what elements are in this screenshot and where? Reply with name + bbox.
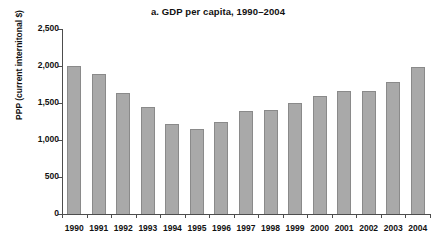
x-tick-mark: [185, 214, 186, 218]
bar: [116, 93, 130, 214]
x-tick-mark: [283, 214, 284, 218]
x-tick-mark: [307, 214, 308, 218]
bar: [190, 129, 204, 214]
y-tick-label: 0: [54, 208, 59, 218]
bar: [67, 66, 81, 214]
y-tick-label: 500: [45, 171, 59, 181]
bar: [141, 107, 155, 214]
bar: [288, 103, 302, 214]
x-tick-mark: [356, 214, 357, 218]
x-tick-label: 2004: [401, 223, 435, 233]
x-tick-mark: [381, 214, 382, 218]
y-tick-label: 1,500: [38, 97, 59, 107]
gdp-per-capita-bar-chart: a. GDP per capita, 1990–2004 PPP (curren…: [0, 0, 436, 245]
bar: [92, 74, 106, 214]
y-tick-label: 1,000: [38, 134, 59, 144]
bar: [313, 96, 327, 214]
x-tick-mark: [234, 214, 235, 218]
bar: [239, 111, 253, 214]
bar-series: [62, 29, 430, 214]
bar: [411, 67, 425, 214]
x-tick-mark: [332, 214, 333, 218]
bar: [264, 110, 278, 214]
x-tick-mark: [62, 214, 63, 218]
bar: [362, 91, 376, 214]
x-tick-mark: [258, 214, 259, 218]
chart-title: a. GDP per capita, 1990–2004: [0, 6, 436, 17]
x-tick-mark: [430, 214, 431, 218]
x-tick-mark: [136, 214, 137, 218]
bar: [337, 91, 351, 214]
plot-area: 05001,0001,5002,0002,500 199019911992199…: [62, 29, 430, 214]
bar: [214, 122, 228, 214]
y-axis-title: PPP (current internitonal $): [14, 0, 24, 140]
y-tick-label: 2,500: [38, 23, 59, 33]
x-tick-mark: [111, 214, 112, 218]
bar: [386, 82, 400, 214]
x-tick-mark: [405, 214, 406, 218]
x-tick-mark: [209, 214, 210, 218]
x-tick-mark: [160, 214, 161, 218]
x-tick-mark: [87, 214, 88, 218]
x-axis-line: [62, 214, 430, 215]
y-tick-label: 2,000: [38, 60, 59, 70]
bar: [165, 124, 179, 214]
